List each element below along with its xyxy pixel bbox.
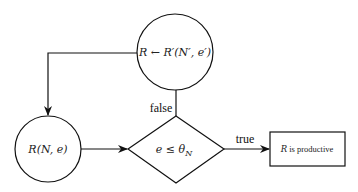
edge-update-to-start	[48, 53, 137, 115]
update-node-label: R ← R′(N′, e′)	[138, 46, 211, 59]
false-label: false	[150, 101, 173, 115]
decision-node: e ≤ θN	[128, 116, 224, 183]
update-node: R ← R′(N′, e′)	[137, 14, 213, 90]
start-node: R(N, e)	[15, 116, 81, 182]
flowchart: R ← R′(N′, e′) R(N, e) e ≤ θN R is produ…	[0, 0, 358, 192]
true-label: true	[236, 132, 255, 146]
start-node-label: R(N, e)	[27, 143, 67, 156]
result-node: R is productive	[270, 132, 345, 166]
result-node-label: R is productive	[280, 144, 334, 154]
